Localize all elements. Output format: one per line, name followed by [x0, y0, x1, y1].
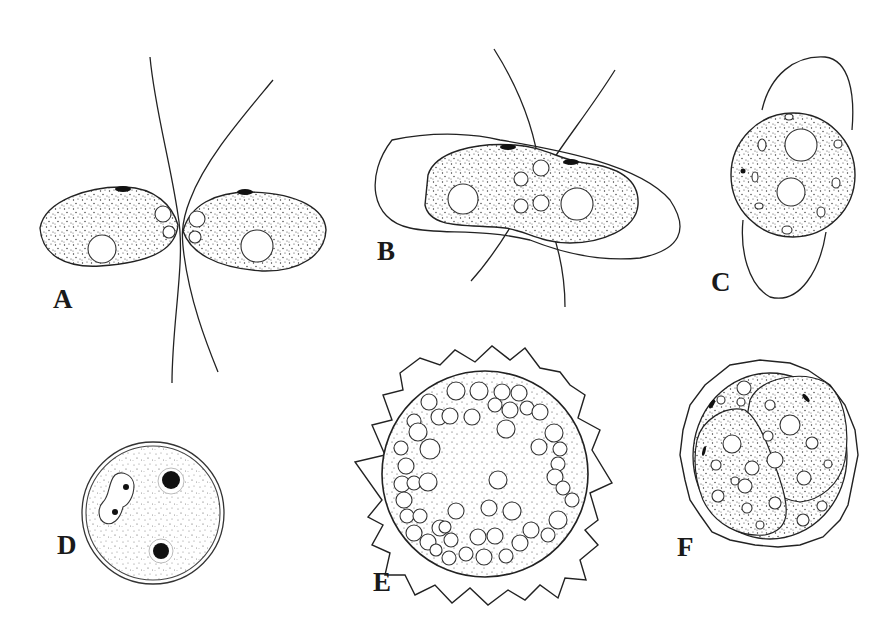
contractile-vacuole	[155, 206, 171, 222]
panel-label: C	[711, 267, 731, 297]
panel-d: D	[57, 442, 224, 584]
nucleolus	[112, 509, 118, 515]
vacuole	[755, 203, 763, 209]
panel-c: C	[711, 57, 855, 298]
vacuole	[758, 139, 766, 151]
vacuole	[817, 207, 825, 217]
eyespot	[741, 169, 746, 174]
panel-label: F	[677, 532, 694, 562]
vacuole	[832, 178, 840, 188]
dark-body	[153, 543, 169, 559]
panel-a: A	[40, 57, 326, 383]
nucleolus	[123, 484, 129, 490]
panel-b: B	[375, 49, 680, 307]
vacuole	[752, 172, 758, 182]
vacuole	[785, 114, 793, 120]
eyespot	[115, 186, 131, 192]
contractile-vacuole	[163, 226, 175, 238]
illustration-plate: A B C	[0, 0, 893, 632]
contractile-vacuole	[514, 199, 528, 213]
nucleus	[241, 230, 273, 262]
nucleus	[88, 235, 116, 263]
panel-e: E	[355, 346, 612, 605]
contractile-vacuole	[514, 172, 528, 186]
eyespot	[563, 159, 579, 165]
panel-label: A	[53, 284, 73, 314]
panel-label: D	[57, 530, 77, 560]
contractile-vacuole	[533, 160, 549, 176]
contractile-vacuole	[189, 211, 205, 227]
nucleus	[561, 188, 593, 220]
panel-label: E	[373, 567, 391, 597]
nucleus	[448, 184, 478, 214]
central-vacuole	[489, 471, 507, 489]
vacuole	[834, 140, 842, 148]
eyespot	[500, 144, 516, 150]
contractile-vacuole	[189, 231, 201, 243]
panel-label: B	[377, 236, 395, 266]
vacuole	[782, 226, 792, 234]
dark-body	[162, 471, 180, 489]
nucleus	[785, 129, 817, 161]
panel-f: F	[677, 360, 858, 562]
eyespot	[237, 189, 253, 195]
contractile-vacuole	[533, 195, 549, 211]
nucleus	[777, 178, 805, 206]
